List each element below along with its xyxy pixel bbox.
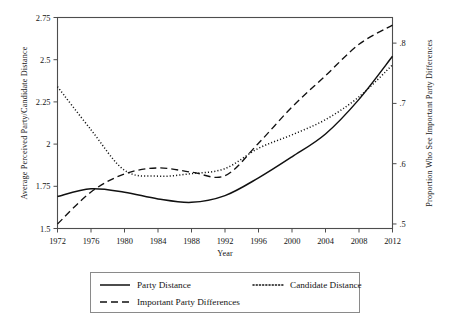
x-tick-label: 1984 bbox=[150, 237, 168, 246]
chart-figure: 1.51.7522.252.52.75 .5.6.7.8 19721976198… bbox=[0, 0, 449, 324]
y-tick-label: 1.75 bbox=[36, 182, 51, 191]
legend-label: Candidate Distance bbox=[290, 280, 362, 290]
x-axis-title: Year bbox=[217, 249, 233, 258]
line-chart: 1.51.7522.252.52.75 .5.6.7.8 19721976198… bbox=[0, 0, 449, 324]
y-axis-title: Average Perceived Party/Candidate Distan… bbox=[20, 46, 29, 199]
legend-label: Important Party Differences bbox=[137, 297, 240, 307]
x-tick-label: 2000 bbox=[284, 237, 301, 246]
x-tick-label: 1988 bbox=[183, 237, 200, 246]
y2-axis-title: Proportion Who See Important Party Diffe… bbox=[425, 39, 434, 206]
y-tick-label: 1.5 bbox=[40, 225, 50, 234]
y2-tick-label: .6 bbox=[400, 160, 406, 169]
x-tick-label: 2008 bbox=[351, 237, 368, 246]
x-tick-label: 2012 bbox=[384, 237, 401, 246]
y-tick-label: 2.5 bbox=[40, 56, 50, 65]
y2-tick-label: .5 bbox=[400, 220, 406, 229]
x-tick-label: 1980 bbox=[116, 237, 133, 246]
y2-tick-label: .8 bbox=[400, 39, 406, 48]
x-tick-label: 1992 bbox=[217, 237, 234, 246]
x-tick-label: 1976 bbox=[83, 237, 100, 246]
x-tick-label: 1972 bbox=[49, 237, 66, 246]
chart-legend: Party DistanceCandidate DistanceImportan… bbox=[91, 273, 362, 313]
y-tick-label: 2 bbox=[46, 140, 50, 149]
x-tick-label: 2004 bbox=[317, 237, 335, 246]
y2-tick-label: .7 bbox=[400, 99, 406, 108]
legend-label: Party Distance bbox=[137, 280, 191, 290]
y-tick-label: 2.75 bbox=[36, 14, 51, 23]
x-tick-label: 1996 bbox=[250, 237, 267, 246]
y-tick-label: 2.25 bbox=[36, 98, 51, 107]
